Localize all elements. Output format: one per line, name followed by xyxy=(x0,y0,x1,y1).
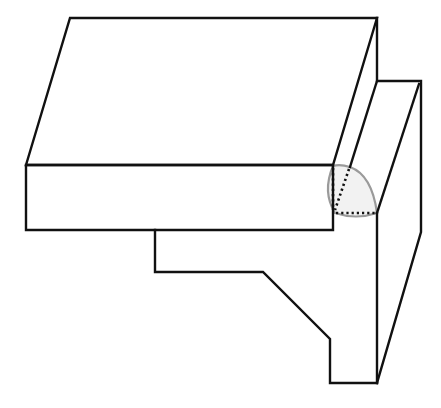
upper-right-vertical-edge xyxy=(377,18,421,383)
inner-diagonal-edge-2 xyxy=(377,84,419,213)
top-slab-front-face xyxy=(26,165,333,230)
diagram-canvas xyxy=(0,0,441,408)
lower-profile-edge xyxy=(155,230,377,383)
top-slab-top-face xyxy=(26,18,377,165)
